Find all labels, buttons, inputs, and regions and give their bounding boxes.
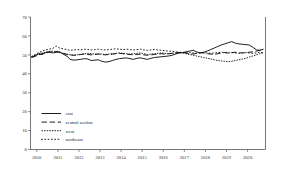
y-tick-label: 0 [25,147,28,152]
x-tick-label: 2015 [138,155,148,160]
legend-label-east: east [66,111,74,116]
legend-label-west: west [66,129,75,134]
y-tick-label: 30 [22,90,27,95]
legend-label-northeast: northeast [66,137,84,142]
x-tick-label: 2014 [117,155,127,160]
y-tick-label: 10 [22,128,27,133]
x-tick-label: 2019 [222,155,232,160]
y-tick-label: 70 [22,15,27,20]
x-axis-ticks: 2010201120122013201420152016201720182019… [32,150,253,160]
data-series-group [32,42,264,62]
x-tick-label: 2018 [201,155,211,160]
x-tick-label: 2012 [74,155,84,160]
x-tick-label: 2017 [180,155,190,160]
x-tick-label: 2010 [32,155,42,160]
line-chart: 010203040506070 201020112012201320142015… [0,0,284,171]
y-tick-label: 20 [22,109,27,114]
chart-legend: eastcentral sectionwestnortheast [42,111,94,142]
legend-label-central-section: central section [66,120,94,125]
chart-canvas: 010203040506070 201020112012201320142015… [0,0,284,171]
series-line-east [32,42,264,62]
x-tick-label: 2020 [243,155,253,160]
x-tick-label: 2013 [95,155,105,160]
x-tick-label: 2011 [53,155,63,160]
y-tick-label: 50 [22,53,27,58]
y-tick-label: 60 [22,34,27,39]
y-axis-ticks: 010203040506070 [22,15,30,153]
y-tick-label: 40 [22,71,27,76]
x-tick-label: 2016 [159,155,169,160]
